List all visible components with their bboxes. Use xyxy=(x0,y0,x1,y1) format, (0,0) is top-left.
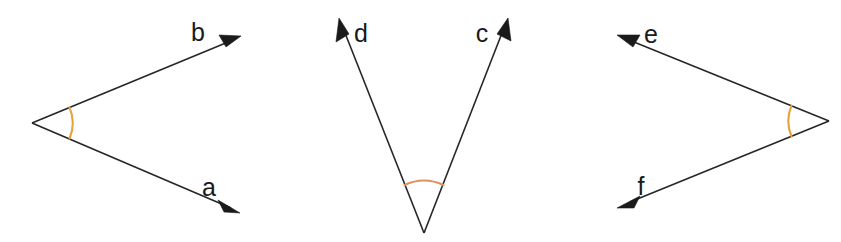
ray-c-line xyxy=(424,33,502,233)
angles-svg: b a d c xyxy=(0,0,841,242)
ray-d-line xyxy=(345,33,424,233)
middle-angle-arc xyxy=(405,181,444,186)
ray-label-f: f xyxy=(638,172,645,200)
right-angle-arc xyxy=(788,106,791,137)
ray-label-d: d xyxy=(354,19,368,47)
ray-c-arrowhead xyxy=(497,18,511,41)
ray-label-e: e xyxy=(644,20,658,48)
ray-label-c: c xyxy=(476,19,489,47)
ray-d xyxy=(336,18,424,233)
ray-f-line xyxy=(630,121,829,202)
ray-label-a: a xyxy=(202,173,216,201)
angle-diagram-canvas: b a d c xyxy=(0,0,841,242)
ray-c xyxy=(424,18,511,233)
ray-b-line xyxy=(32,40,233,123)
left-angle-arc xyxy=(70,108,73,139)
ray-label-b: b xyxy=(191,18,205,46)
ray-f xyxy=(617,121,829,208)
ray-a-arrowhead xyxy=(218,200,240,213)
ray-b xyxy=(32,35,241,123)
ray-e-arrowhead xyxy=(617,35,640,47)
left-angle-group: b a xyxy=(32,18,241,213)
middle-angle-group: d c xyxy=(336,18,511,233)
ray-e-line xyxy=(629,40,829,121)
right-angle-group: e f xyxy=(617,20,829,208)
